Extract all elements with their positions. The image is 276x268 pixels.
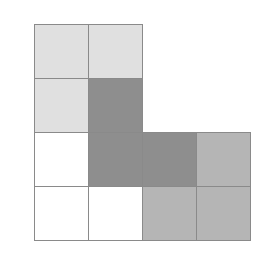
grid-cell-light <box>34 78 89 133</box>
grid-cell-medium <box>196 132 251 187</box>
grid-cell-medium <box>196 186 251 241</box>
grid-cell-medium <box>142 186 197 241</box>
shaded-grid-diagram <box>0 0 276 268</box>
grid-cell-white <box>34 186 89 241</box>
grid-cell-white <box>34 132 89 187</box>
grid-cell-dark <box>88 78 143 133</box>
grid-cell-dark <box>142 132 197 187</box>
grid-cell-white <box>88 186 143 241</box>
grid-cell-light <box>88 24 143 79</box>
grid-cell-light <box>34 24 89 79</box>
grid-cell-dark <box>88 132 143 187</box>
